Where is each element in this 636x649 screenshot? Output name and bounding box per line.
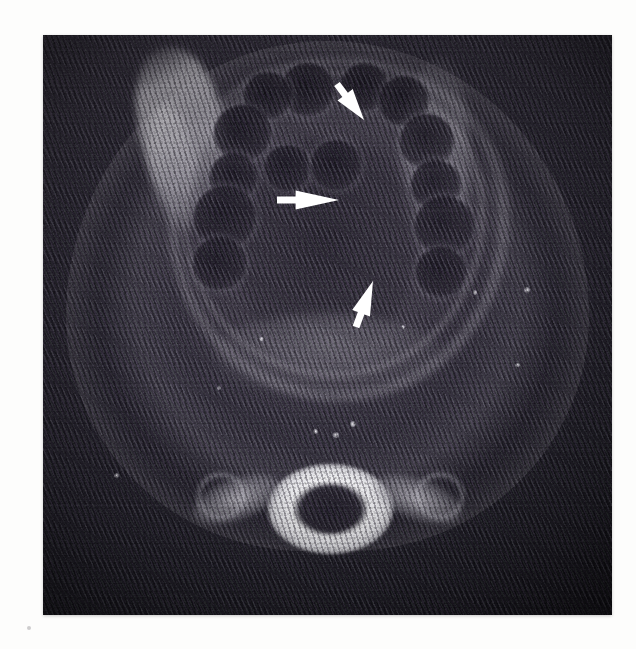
arrow-midline-lateral-glyph — [277, 191, 339, 210]
arrow-inferior-posterior-glyph — [347, 278, 382, 331]
medical-scan-image — [43, 35, 612, 615]
figure-page — [0, 0, 636, 649]
vignette-overlay — [43, 35, 612, 615]
page-print-speck — [27, 626, 31, 630]
